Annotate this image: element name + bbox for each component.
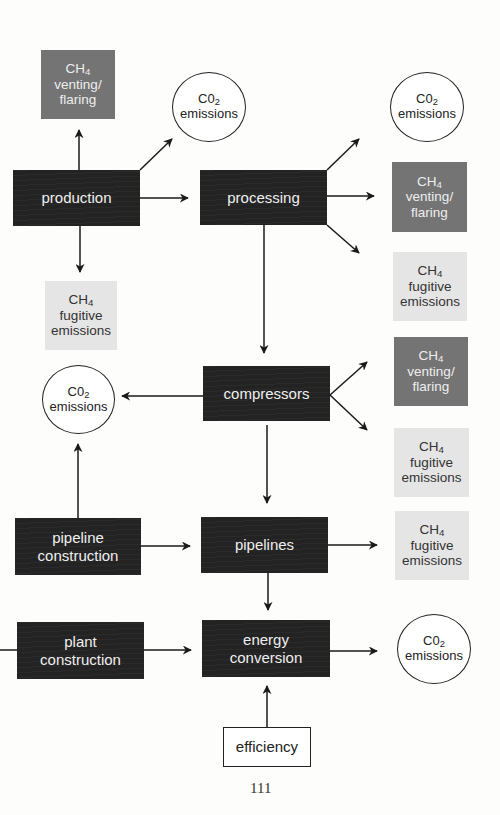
- ch4-label: CH4: [417, 174, 442, 190]
- ch4-label: CH4: [69, 292, 94, 308]
- pipeline-construction-node: pipeline construction: [15, 518, 141, 575]
- production-node: production: [13, 170, 140, 226]
- emissions-label: emissions: [180, 107, 238, 122]
- plant-construction-node: plant construction: [17, 622, 144, 679]
- venting-label: venting/: [406, 189, 453, 205]
- emissions-label: emissions: [405, 649, 463, 664]
- co2-label: C02: [423, 634, 445, 649]
- emissions-label: emissions: [51, 323, 111, 339]
- ch4-label: CH4: [66, 61, 91, 77]
- pipelines-label: pipelines: [235, 536, 294, 553]
- co2-emissions-top-right: C02 emissions: [390, 72, 464, 142]
- emissions-label: emissions: [401, 470, 461, 486]
- flaring-label: flaring: [60, 92, 97, 108]
- fugitive-label: fugitive: [409, 279, 452, 295]
- ch4-venting-flaring-top: CH4 venting/ flaring: [41, 50, 115, 119]
- compressors-label: compressors: [224, 385, 310, 402]
- co2-emissions-bottom-right: C02 emissions: [397, 614, 471, 684]
- plant-label: plant: [64, 633, 97, 650]
- flaring-label: flaring: [413, 379, 450, 395]
- arrow-compressors-to-fugitive: [330, 395, 367, 430]
- co2-emissions-left: C02 emissions: [42, 365, 115, 434]
- ch4-venting-flaring-right: CH4 venting/ flaring: [392, 162, 467, 232]
- ch4-fugitive-emissions-right-lower: CH4 fugitive emissions: [395, 511, 469, 580]
- ch4-label: CH4: [420, 522, 445, 538]
- fugitive-label: fugitive: [410, 455, 453, 471]
- emissions-label: emissions: [50, 400, 108, 415]
- ch4-fugitive-emissions-right-mid: CH4 fugitive emissions: [394, 428, 469, 497]
- flaring-label: flaring: [411, 205, 448, 221]
- co2-emissions-top: C02 emissions: [172, 72, 246, 142]
- ch4-label: CH4: [419, 348, 444, 364]
- arrow-processing-to-co2: [327, 139, 359, 170]
- page-number: 111: [250, 780, 271, 797]
- conversion-label: conversion: [230, 649, 303, 666]
- pipelines-node: pipelines: [201, 517, 328, 573]
- processing-label: processing: [227, 189, 300, 206]
- co2-label: C02: [68, 385, 90, 400]
- compressors-node: compressors: [203, 366, 330, 421]
- fugitive-label: fugitive: [60, 308, 103, 324]
- construction-label: construction: [38, 547, 119, 564]
- ch4-fugitive-emissions-left: CH4 fugitive emissions: [45, 281, 117, 350]
- arrow-production-to-co2: [140, 139, 172, 170]
- efficiency-label: efficiency: [236, 738, 298, 755]
- arrow-compressors-to-venting: [330, 362, 367, 395]
- emissions-label: emissions: [402, 553, 462, 569]
- processing-node: processing: [200, 170, 327, 225]
- fugitive-label: fugitive: [411, 538, 454, 554]
- emissions-label: emissions: [398, 107, 456, 122]
- ch4-label: CH4: [419, 439, 444, 455]
- venting-label: venting/: [54, 77, 101, 93]
- ch4-fugitive-emissions-right: CH4 fugitive emissions: [393, 252, 467, 321]
- venting-label: venting/: [407, 364, 454, 380]
- construction-label: construction: [40, 651, 121, 668]
- production-label: production: [41, 189, 111, 206]
- co2-label: C02: [416, 92, 438, 107]
- energy-conversion-node: energy conversion: [202, 620, 330, 677]
- emissions-label: emissions: [400, 294, 460, 310]
- ch4-label: CH4: [418, 263, 443, 279]
- arrow-processing-to-fugitive: [327, 225, 359, 253]
- ch4-venting-flaring-right-mid: CH4 venting/ flaring: [394, 337, 468, 406]
- efficiency-node: efficiency: [223, 727, 311, 767]
- energy-label: energy: [243, 631, 289, 648]
- pipeline-label: pipeline: [52, 529, 104, 546]
- co2-label: C02: [198, 92, 220, 107]
